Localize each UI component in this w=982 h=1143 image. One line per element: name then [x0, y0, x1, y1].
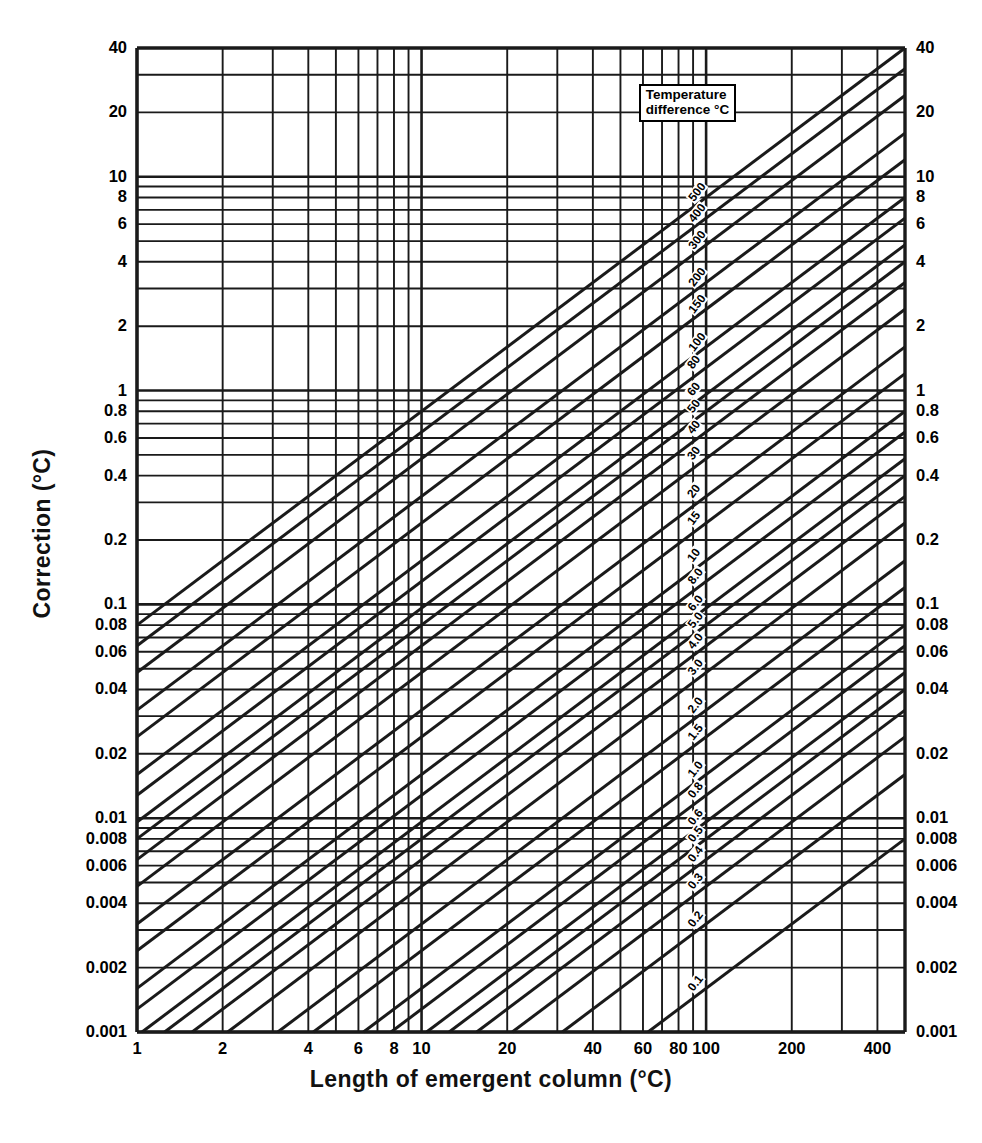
y-axis-tick-label-left: 40 [57, 39, 127, 56]
temperature-difference-line [137, 218, 905, 795]
y-axis-tick-label-right: 0.08 [916, 616, 982, 633]
x-axis-tick-label: 2 [193, 1040, 253, 1057]
y-axis-tick-label-right: 0.006 [916, 857, 982, 874]
y-axis-tick-label-left: 0.02 [57, 745, 127, 762]
y-axis-tick-label-left: 0.004 [57, 894, 127, 911]
x-axis-tick-label: 20 [477, 1040, 537, 1057]
x-axis-tick-label: 400 [847, 1040, 907, 1057]
y-axis-tick-label-right: 0.04 [916, 680, 982, 697]
y-axis-tick-label-right: 40 [916, 39, 982, 56]
temperature-difference-line [137, 262, 905, 839]
y-axis-tick-label-left: 0.08 [57, 616, 127, 633]
y-axis-tick-label-left: 0.6 [57, 429, 127, 446]
temperature-difference-line [137, 347, 905, 924]
temperature-difference-line [427, 673, 905, 1032]
y-axis-tick-label-right: 4 [916, 253, 982, 270]
y-axis-tick-label-right: 10 [916, 168, 982, 185]
y-axis-tick-label-left: 0.01 [57, 809, 127, 826]
y-axis-tick-label-right: 0.8 [916, 402, 982, 419]
y-axis-tick-label-right: 0.4 [916, 467, 982, 484]
y-axis-tick-label-left: 0.002 [57, 959, 127, 976]
y-axis-tick-label-left: 0.8 [57, 402, 127, 419]
y-axis-tick-label-right: 0.1 [916, 595, 982, 612]
temperature-difference-line [278, 561, 905, 1032]
temperature-difference-line [142, 459, 905, 1032]
legend-line-2: difference °C [646, 103, 729, 117]
y-axis-tick-label-right: 0.002 [916, 959, 982, 976]
y-axis-tick-label-right: 0.06 [916, 643, 982, 660]
y-axis-tick-label-left: 20 [57, 103, 127, 120]
y-axis-tick-label-right: 6 [916, 215, 982, 232]
temperature-difference-line [137, 48, 905, 625]
y-axis-tick-label-left: 0.008 [57, 830, 127, 847]
y-axis-tick-label-left: 2 [57, 317, 127, 334]
chart-canvas [0, 0, 982, 1143]
temperature-difference-line [137, 69, 905, 646]
emergent-stem-correction-nomogram: Temperature difference °C Length of emer… [0, 0, 982, 1143]
y-axis-tick-label-left: 0.2 [57, 531, 127, 548]
y-axis-tick-label-left: 0.006 [57, 857, 127, 874]
y-axis-tick-label-right: 0.001 [916, 1023, 982, 1040]
y-axis-title: Correction (°C) [29, 324, 56, 744]
temperature-difference-line [228, 523, 905, 1032]
temperature-difference-line [449, 689, 905, 1032]
y-axis-tick-label-left: 4 [57, 253, 127, 270]
temperature-difference-line [137, 309, 905, 886]
temperature-difference-line [137, 133, 905, 710]
y-axis-tick-label-right: 2 [916, 317, 982, 334]
temperature-difference-line [137, 432, 905, 1009]
y-axis-tick-label-right: 0.6 [916, 429, 982, 446]
x-axis-tick-label: 200 [762, 1040, 822, 1057]
y-axis-tick-label-right: 0.2 [916, 531, 982, 548]
x-axis-tick-label: 100 [676, 1040, 736, 1057]
temperature-difference-line [137, 245, 905, 822]
temperature-difference-line [137, 160, 905, 737]
temperature-difference-line [137, 197, 905, 774]
y-axis-tick-label-left: 0.4 [57, 467, 127, 484]
temperature-difference-line [137, 411, 905, 988]
legend-line-1: Temperature [646, 88, 729, 102]
y-axis-tick-label-left: 6 [57, 215, 127, 232]
y-axis-tick-label-right: 0.01 [916, 809, 982, 826]
legend-box: Temperature difference °C [639, 84, 736, 122]
x-axis-tick-label: 10 [392, 1040, 452, 1057]
y-axis-tick-label-right: 0.004 [916, 894, 982, 911]
y-axis-tick-label-right: 1 [916, 382, 982, 399]
y-axis-tick-label-left: 8 [57, 188, 127, 205]
x-axis-tick-label: 1 [107, 1040, 167, 1057]
temperature-difference-line [137, 374, 905, 951]
temperature-difference-line [137, 95, 905, 672]
y-axis-tick-label-left: 0.001 [57, 1023, 127, 1040]
y-axis-tick-label-right: 0.008 [916, 830, 982, 847]
y-axis-tick-label-right: 0.02 [916, 745, 982, 762]
y-axis-tick-label-left: 0.06 [57, 643, 127, 660]
temperature-difference-line [648, 839, 905, 1032]
temperature-difference-line [137, 283, 905, 860]
y-axis-tick-label-right: 8 [916, 188, 982, 205]
y-axis-tick-label-left: 0.04 [57, 680, 127, 697]
y-axis-tick-label-left: 1 [57, 382, 127, 399]
x-axis-title: Length of emergent column (°C) [0, 1066, 982, 1093]
y-axis-tick-label-left: 10 [57, 168, 127, 185]
y-axis-tick-label-left: 0.1 [57, 595, 127, 612]
y-axis-tick-label-right: 20 [916, 103, 982, 120]
